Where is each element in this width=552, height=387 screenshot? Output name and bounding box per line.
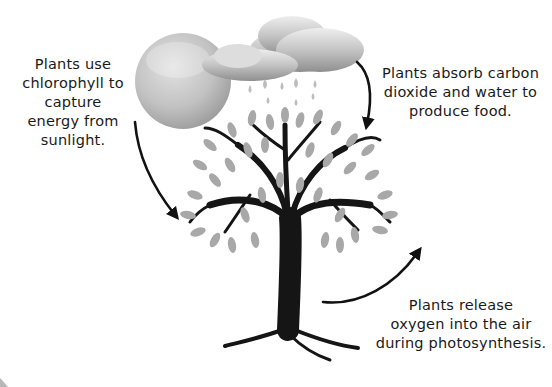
label-absorb: Plants absorb carbon dioxide and water t… xyxy=(373,64,548,121)
arrow-tree-to-air xyxy=(323,252,418,302)
arrow-sun-to-tree xyxy=(135,122,175,215)
tree-icon xyxy=(179,107,398,360)
label-release: Plants release oxygen into the air durin… xyxy=(370,296,552,353)
label-sunlight: Plants use chlorophyll to capture energy… xyxy=(18,55,128,150)
sun-icon xyxy=(135,33,231,129)
arrow-cloud-to-tree xyxy=(357,62,370,124)
corner-fragment xyxy=(0,378,8,387)
